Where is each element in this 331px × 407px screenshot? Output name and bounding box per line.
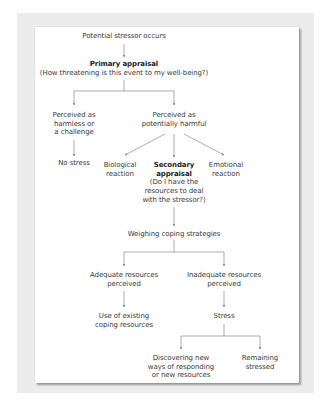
node-text: Potential stressor occurs [82, 32, 165, 41]
node-weighing-coping: Weighing coping strategies [128, 230, 221, 239]
node-text: Biological [104, 161, 137, 170]
node-text: reaction [104, 170, 137, 179]
node-text: stressed [242, 363, 278, 372]
node-no-stress: No stress [58, 159, 90, 168]
node-text: Remaining [242, 354, 278, 363]
node-primary-appraisal: Primary appraisal (How threatening is th… [40, 60, 208, 77]
node-perceived-harmless: Perceived as harmless or a challenge [53, 111, 96, 137]
node-title: appraisal [142, 170, 205, 179]
node-adequate-resources: Adequate resources perceived [90, 271, 158, 288]
node-text: Perceived as [53, 111, 96, 120]
node-text: (How threatening is this event to my wel… [40, 69, 208, 78]
node-emotional-reaction: Emotional reaction [209, 161, 243, 178]
node-text: Adequate resources [90, 271, 158, 280]
node-text: Discovering new [148, 354, 214, 363]
node-text: resources to deal [142, 187, 205, 196]
node-text: harmless or [53, 120, 96, 129]
node-text: potentially harmful [142, 120, 207, 129]
node-text: No stress [58, 159, 90, 168]
node-perceived-harmful: Perceived as potentially harmful [142, 111, 207, 128]
node-text: perceived [90, 280, 158, 289]
node-remaining-stressed: Remaining stressed [242, 354, 278, 371]
node-discovering-new: Discovering new ways of responding or ne… [148, 354, 214, 380]
node-text: with the stressor?) [142, 196, 205, 205]
node-biological-reaction: Biological reaction [104, 161, 137, 178]
node-text: coping resources [95, 321, 153, 330]
node-text: Weighing coping strategies [128, 230, 221, 239]
node-text: Inadequate resources [187, 271, 261, 280]
edge-harmful-emotional [184, 134, 224, 155]
node-inadequate-resources: Inadequate resources perceived [187, 271, 261, 288]
node-title: Secondary [142, 161, 205, 170]
node-text: (Do I have the [142, 178, 205, 187]
node-text: reaction [209, 170, 243, 179]
node-text: perceived [187, 280, 261, 289]
node-text: Use of existing [95, 312, 153, 321]
node-stress: Stress [214, 312, 235, 321]
node-title: Primary appraisal [40, 60, 208, 69]
node-potential-stressor: Potential stressor occurs [82, 32, 165, 41]
node-text: or new resources [148, 371, 214, 380]
node-text: Emotional [209, 161, 243, 170]
node-text: Stress [214, 312, 235, 321]
edge-harmful-biological [125, 134, 165, 155]
node-text: ways of responding [148, 363, 214, 372]
node-text: Perceived as [142, 111, 207, 120]
node-secondary-appraisal: Secondary appraisal (Do I have the resou… [142, 161, 205, 205]
node-existing-coping: Use of existing coping resources [95, 312, 153, 329]
node-text: a challenge [53, 128, 96, 137]
